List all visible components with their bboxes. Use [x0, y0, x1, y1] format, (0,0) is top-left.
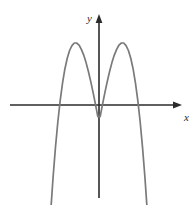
x-axis-label: x: [184, 112, 189, 123]
graph-figure: y x: [0, 0, 196, 205]
x-axis-arrowhead: [173, 102, 182, 109]
y-axis-arrowhead: [96, 14, 103, 23]
quartic-curve: [47, 30, 71, 167]
coordinate-plot: [0, 0, 196, 205]
y-axis-label: y: [87, 13, 92, 24]
